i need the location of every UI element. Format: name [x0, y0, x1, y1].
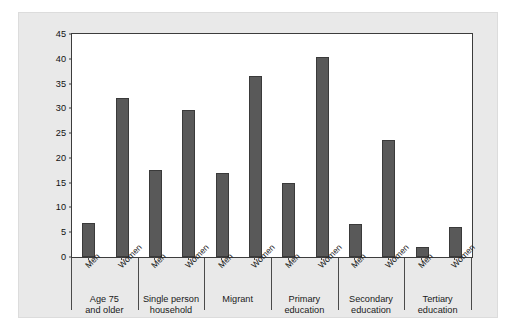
x-axis-group-label: Tertiaryeducation [404, 294, 471, 316]
bar [182, 110, 195, 257]
y-axis-tick-label: 15 [30, 178, 72, 188]
y-axis-tick-label: 10 [30, 202, 72, 212]
bar [282, 183, 295, 257]
group-label-line1: Primary [289, 294, 321, 304]
y-axis-tick-label: 0 [30, 252, 72, 262]
group-label-line1: Age 75 [90, 294, 119, 304]
group-label-line2: household [150, 305, 192, 315]
group-label-line2: education [351, 305, 391, 315]
y-axis-tick-label: 20 [30, 153, 72, 163]
bar [249, 76, 262, 257]
x-axis-group-label: Migrant [204, 294, 271, 305]
plot-area [72, 34, 472, 257]
bar [149, 170, 162, 257]
y-axis-tick-label: 25 [30, 128, 72, 138]
x-axis-group-label: Single personhousehold [138, 294, 205, 316]
group-label-line1: Migrant [222, 294, 253, 304]
chart-figure: Share of elderly at risk of relative pov… [18, 12, 498, 318]
x-axis-group-label: Secondaryeducation [338, 294, 405, 316]
group-separator-edge [471, 258, 472, 310]
x-axis-group-label: Age 75and older [71, 294, 138, 316]
y-axis-tick-label: 35 [30, 79, 72, 89]
y-axis-tick-label: 40 [30, 54, 72, 64]
bar [216, 173, 229, 257]
bar [116, 98, 129, 257]
bar [382, 140, 395, 257]
group-label-line1: Secondary [349, 294, 393, 304]
group-label-line1: Tertiary [423, 294, 453, 304]
group-label-line2: and older [85, 305, 123, 315]
x-axis-group-label: Primaryeducation [271, 294, 338, 316]
group-label-line2: education [284, 305, 324, 315]
y-axis-tick-label: 45 [30, 29, 72, 39]
y-axis-tick-label: 5 [30, 227, 72, 237]
plot-panel: Share of elderly at risk of relative pov… [71, 33, 473, 258]
group-separator-edge [71, 258, 72, 310]
group-label-line1: Single person [143, 294, 199, 304]
bar [316, 57, 329, 257]
y-axis-tick-label: 30 [30, 103, 72, 113]
group-label-line2: education [418, 305, 458, 315]
